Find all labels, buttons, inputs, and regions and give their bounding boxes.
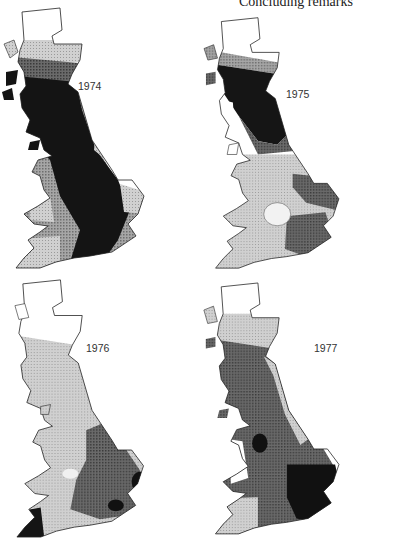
- gb-map-1976-graphic: [0, 272, 200, 541]
- map-1974: 1974: [0, 0, 200, 272]
- map-1976: 1976: [0, 272, 200, 541]
- gb-map-1975-graphic: [200, 10, 393, 272]
- running-header: Concluding remarks: [239, 0, 353, 10]
- gb-map-1974-graphic: [0, 0, 200, 272]
- map-1975: 1975: [200, 10, 393, 272]
- year-label-1976: 1976: [86, 342, 109, 354]
- year-label-1977: 1977: [314, 342, 337, 354]
- map-1977: 1977: [200, 272, 393, 541]
- year-label-1974: 1974: [78, 80, 101, 92]
- year-label-1975: 1975: [286, 88, 309, 100]
- gb-map-1977-graphic: [200, 272, 393, 541]
